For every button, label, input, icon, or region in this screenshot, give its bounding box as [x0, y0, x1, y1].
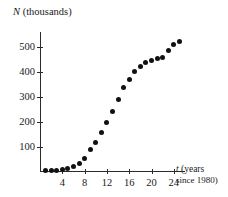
data-point [43, 168, 48, 173]
x-tick-20 [152, 169, 153, 174]
y-tick-500 [37, 47, 43, 48]
y-tick-label-500: 500 [8, 41, 35, 52]
data-point [160, 55, 165, 60]
data-point [138, 64, 143, 69]
y-axis-line [40, 32, 41, 172]
data-point [99, 130, 104, 135]
y-tick-200 [37, 122, 43, 123]
data-point [116, 97, 121, 102]
data-point [166, 48, 171, 53]
x-tick-16 [129, 169, 130, 174]
y-tick-label-100: 100 [8, 141, 35, 152]
y-tick-400 [37, 72, 43, 73]
x-tick-label-4: 4 [52, 177, 72, 188]
y-tick-label-300: 300 [8, 91, 35, 102]
data-point [110, 109, 115, 114]
data-point [93, 140, 98, 145]
x-tick-24 [174, 169, 175, 174]
data-point [104, 120, 109, 125]
plot-area [40, 32, 185, 172]
data-point [54, 168, 59, 173]
x-axis-units-line1: (years [179, 164, 205, 174]
data-point [177, 39, 182, 44]
data-point [149, 58, 154, 63]
data-point [171, 42, 176, 47]
data-point [155, 56, 160, 61]
data-point [49, 168, 54, 173]
y-tick-300 [37, 97, 43, 98]
data-point [82, 156, 87, 161]
data-point [132, 69, 137, 74]
data-point [71, 164, 76, 169]
y-tick-label-400: 400 [8, 66, 35, 77]
data-point [88, 147, 93, 152]
y-axis-variable: N [13, 6, 20, 17]
data-point [77, 161, 82, 166]
scatter-plot-figure: N (thousands) 100200300400500 4812162024… [0, 0, 228, 197]
y-tick-label-200: 200 [8, 116, 35, 127]
y-axis-units: (thousands) [20, 6, 72, 17]
x-tick-8 [85, 169, 86, 174]
x-axis-label: t (years since 1980) [176, 164, 218, 185]
x-tick-label-8: 8 [75, 177, 95, 188]
data-point [121, 85, 126, 90]
x-tick-12 [107, 169, 108, 174]
x-tick-label-20: 20 [142, 177, 162, 188]
data-point [127, 77, 132, 82]
data-point [60, 167, 65, 172]
x-tick-label-12: 12 [97, 177, 117, 188]
x-axis-units-line2: since 1980) [176, 175, 218, 186]
y-tick-100 [37, 147, 43, 148]
x-tick-label-16: 16 [119, 177, 139, 188]
y-axis-label: N (thousands) [13, 6, 72, 18]
data-point [143, 60, 148, 65]
